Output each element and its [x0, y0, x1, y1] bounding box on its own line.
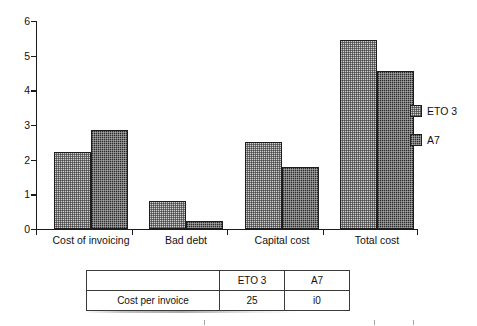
- y-tick-1: [31, 194, 37, 195]
- bar-a7-total-cost: [377, 71, 414, 229]
- y-tick-label-6: 6: [17, 16, 30, 26]
- scan-artifact-mark-2: [374, 320, 375, 325]
- bar-eto3-total-cost: [340, 40, 377, 229]
- legend-item-a7: A7: [410, 133, 477, 147]
- y-tick-label-1: 1: [17, 189, 30, 199]
- category-label-total-cost: Total cost: [314, 234, 440, 246]
- bar-eto3-bad-debt: [149, 201, 186, 229]
- legend-swatch-light-dither-icon: [410, 105, 422, 117]
- data-table-container: ETO 3 A7 Cost per invoice 25 i0: [86, 270, 350, 311]
- legend-item-eto3: ETO 3: [410, 104, 477, 118]
- bar-eto3-capital-cost: [245, 142, 282, 229]
- cost-per-invoice-table: ETO 3 A7 Cost per invoice 25 i0: [86, 270, 350, 311]
- y-tick-6: [31, 21, 37, 22]
- table-header-eto3: ETO 3: [220, 271, 285, 291]
- table-row: Cost per invoice 25 i0: [87, 291, 350, 311]
- table-cell-a7-cost-per-invoice: i0: [285, 291, 350, 311]
- y-tick-2: [31, 160, 37, 161]
- table-row-label-cost-per-invoice: Cost per invoice: [87, 291, 220, 311]
- bar-eto3-cost-of-invoicing: [54, 152, 91, 229]
- bar-a7-bad-debt: [186, 221, 223, 229]
- y-tick-label-4: 4: [17, 85, 30, 95]
- y-tick-label-2: 2: [17, 155, 30, 165]
- chart-legend: ETO 3 A7: [410, 104, 477, 162]
- table-corner-cell: [87, 271, 220, 291]
- table-cell-eto3-cost-per-invoice: 25: [220, 291, 285, 311]
- chart-figure: 6 5 4 3 2 1 0 Cost of invoicing Bad debt…: [0, 0, 477, 326]
- table-header-a7: A7: [285, 271, 350, 291]
- y-tick-3: [31, 125, 37, 126]
- y-tick-4: [31, 90, 37, 91]
- legend-swatch-dark-dither-icon: [410, 134, 422, 146]
- y-tick-label-0: 0: [17, 224, 30, 234]
- y-tick-label-5: 5: [17, 51, 30, 61]
- y-tick-5: [31, 56, 37, 57]
- bar-a7-capital-cost: [282, 167, 319, 229]
- scan-artifact-mark-3: [413, 320, 414, 325]
- scan-artifact-smudge: [84, 311, 299, 313]
- plot-area: 6 5 4 3 2 1 0 Cost of invoicing Bad debt…: [36, 21, 418, 229]
- table-header-row: ETO 3 A7: [87, 271, 350, 291]
- scan-artifact-mark-1: [204, 320, 205, 325]
- legend-label-a7: A7: [427, 135, 440, 146]
- legend-label-eto3: ETO 3: [427, 106, 457, 117]
- bar-a7-cost-of-invoicing: [91, 130, 128, 229]
- y-tick-label-3: 3: [17, 120, 30, 130]
